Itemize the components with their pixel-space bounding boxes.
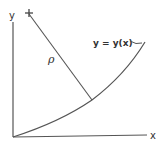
radius-label: ρ — [47, 53, 55, 66]
radius-line — [29, 14, 92, 100]
x-axis — [13, 135, 147, 137]
center-of-curvature-marker — [25, 9, 33, 17]
y-axis-label: y — [9, 10, 15, 21]
curvature-diagram: y x ρ y = y(x) — [0, 0, 163, 149]
curve-label: y = y(x) — [93, 38, 133, 48]
curve — [13, 42, 145, 137]
x-axis-label: x — [150, 130, 156, 141]
